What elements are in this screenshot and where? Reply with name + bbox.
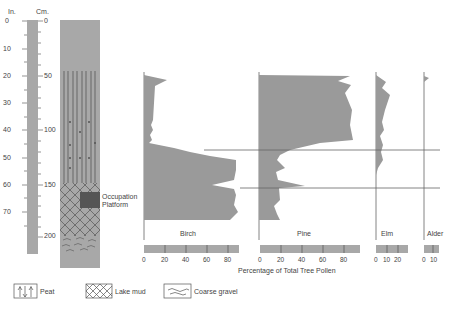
birch-panel [144, 72, 239, 253]
occupation-platform [80, 192, 100, 208]
elm-tick: 10 [383, 257, 390, 264]
elm-tick: 20 [394, 257, 401, 264]
occupation-platform-label-line1: Occupation [102, 193, 137, 200]
scale-bar [27, 20, 38, 254]
panel-title-pine: Pine [297, 230, 311, 237]
pine-panel [259, 72, 360, 253]
legend-coarse-gravel-label: Coarse gravel [194, 288, 238, 295]
elm-tick: 0 [374, 257, 378, 264]
alder-tick: 10 [430, 257, 437, 264]
pine-tick: 0 [258, 257, 262, 264]
sediment-core [60, 20, 100, 268]
elm-panel [376, 72, 408, 253]
x-axis-title: Percentage of Total Tree Pollen [238, 267, 336, 274]
birch-tick: 0 [142, 257, 146, 264]
legend-lake-mud-label: Lake mud [115, 288, 146, 295]
pine-tick: 40 [298, 257, 305, 264]
panel-title-birch: Birch [180, 230, 196, 237]
horizon-markers [204, 150, 440, 188]
birch-tick: 40 [182, 257, 189, 264]
birch-tick: 60 [203, 257, 210, 264]
legend-peat-label: Peat [40, 288, 54, 295]
birch-tick: 80 [224, 257, 231, 264]
alder-tick: 0 [422, 257, 426, 264]
alder-panel [424, 72, 439, 253]
birch-tick: 20 [161, 257, 168, 264]
panel-title-elm: Elm [381, 230, 393, 237]
pine-tick: 60 [319, 257, 326, 264]
pine-tick: 80 [340, 257, 347, 264]
panel-title-alder: Alder [427, 230, 443, 237]
pine-tick: 20 [277, 257, 284, 264]
occupation-platform-label-line2: Platform [102, 201, 128, 208]
